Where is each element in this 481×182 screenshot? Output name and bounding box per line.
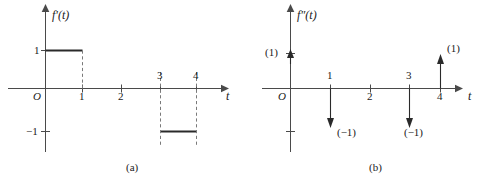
panel-a-y-axis-label: f'(t) bbox=[52, 9, 69, 21]
panel-a-xtick-label-4: 4 bbox=[193, 70, 199, 81]
panel-b-xtick-label-2: 2 bbox=[367, 91, 373, 102]
panel-b-y-axis-label: f″(t) bbox=[297, 9, 317, 21]
panel-a-ytick-label-1: 1 bbox=[34, 45, 40, 56]
panel-b-impulse-label-t4: (1) bbox=[447, 43, 460, 54]
panel-a-y-axis-arrowhead bbox=[42, 4, 50, 12]
panel-b-x-axis-label: t bbox=[468, 90, 471, 102]
panel-a-origin-label: O bbox=[33, 91, 41, 102]
panel-b-impulse-t0-positive bbox=[287, 49, 294, 64]
panel-b-impulse-label-t3: (−1) bbox=[404, 127, 423, 138]
panel-a-x-axis-label: t bbox=[226, 90, 229, 102]
panel-b-impulse-t1-arrowhead bbox=[327, 118, 334, 128]
panel-b-graphics bbox=[262, 4, 463, 152]
panel-a-ytick-label-neg1: −1 bbox=[26, 126, 38, 137]
panel-a-xtick-label-2: 2 bbox=[118, 91, 124, 102]
panel-b-impulse-t4-arrowhead bbox=[437, 54, 444, 64]
panel-b-y-axis-arrowhead bbox=[287, 4, 295, 12]
panel-a-xtick-label-3: 3 bbox=[157, 70, 163, 81]
panel-b-xtick-label-1: 1 bbox=[327, 70, 333, 81]
panel-b-origin-label: O bbox=[278, 91, 286, 102]
panel-b-impulse-t3-negative bbox=[406, 89, 413, 129]
panel-b-impulse-label-t1: (−1) bbox=[337, 127, 356, 138]
panel-a-xtick-label-1: 1 bbox=[79, 91, 85, 102]
panel-b-xtick-label-4: 4 bbox=[437, 91, 443, 102]
figure-container: f'(t) t O 1 −1 1 2 3 4 (a) f″(t) t O 1 2… bbox=[0, 0, 481, 182]
figure-graphics bbox=[0, 0, 481, 182]
panel-b-impulse-t4-positive bbox=[437, 54, 444, 89]
panel-b-caption: (b) bbox=[369, 162, 382, 173]
panel-b-xtick-label-3: 3 bbox=[406, 70, 412, 81]
panel-b-x-axis-arrowhead bbox=[455, 85, 463, 93]
panel-b-impulse-t1-negative bbox=[327, 89, 334, 129]
panel-a-caption: (a) bbox=[126, 162, 138, 173]
panel-b-impulse-label-t0: (1) bbox=[265, 47, 278, 58]
